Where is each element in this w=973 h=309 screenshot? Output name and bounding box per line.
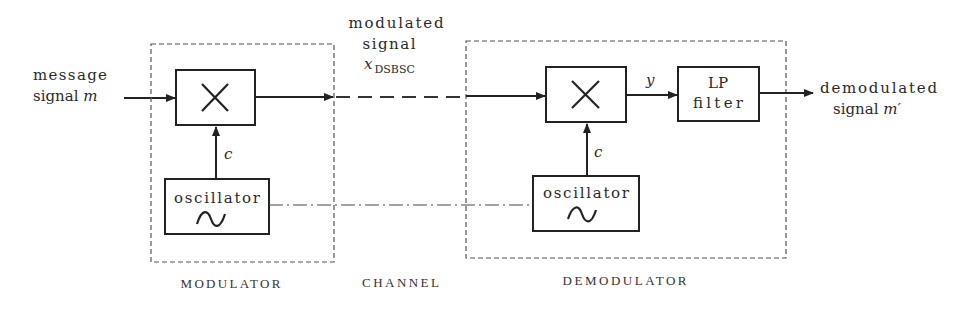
sine-wave-icon — [197, 212, 225, 226]
channel-symbol-x: x — [364, 55, 373, 73]
output-label: demodulated signal m′ — [820, 79, 937, 118]
channel-symbol-subscript: DSBSC — [374, 63, 414, 76]
channel-signal-label: modulated signal xDSBSC — [349, 14, 444, 76]
output-label-line1: demodulated — [820, 79, 937, 97]
channel-signal-line1: modulated — [349, 14, 444, 32]
multiply-icon — [202, 84, 228, 111]
filter-label-line2: filter — [693, 94, 744, 112]
input-label: message signal m — [33, 66, 107, 105]
sine-wave-icon — [568, 207, 596, 221]
input-label-line1: message — [33, 66, 107, 84]
channel-signal-symbol: xDSBSC — [364, 55, 415, 76]
multiply-icon — [572, 81, 599, 108]
demodulator-oscillator-label: oscillator — [543, 184, 630, 202]
channel-signal-line2: signal — [363, 35, 416, 53]
output-label-text: signal — [833, 100, 883, 118]
modulator-label: MODULATOR — [181, 276, 282, 291]
demodulator-carrier-label: c — [594, 143, 603, 161]
demodulator-label: DEMODULATOR — [563, 273, 688, 288]
intermediate-label: y — [645, 71, 655, 89]
filter-label-line1: LP — [708, 74, 728, 92]
input-label-text: signal — [33, 87, 83, 105]
output-symbol: m′ — [883, 100, 901, 118]
input-symbol: m — [83, 87, 97, 105]
channel-label: CHANNEL — [362, 275, 440, 290]
input-label-line2: signal m — [33, 87, 98, 105]
dsbsc-block-diagram: message signal m oscillator c MODULATOR … — [0, 0, 973, 309]
modulator-carrier-label: c — [224, 145, 233, 163]
modulator-boundary — [151, 44, 334, 262]
modulator-oscillator-label: oscillator — [174, 189, 261, 207]
output-label-line2: signal m′ — [833, 100, 902, 118]
